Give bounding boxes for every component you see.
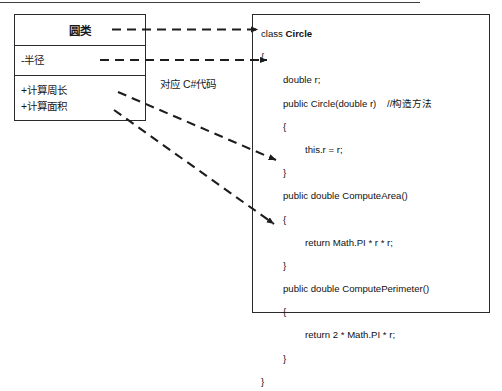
code-line: class Circle [253,22,489,45]
code-line: public double ComputeArea() [253,184,489,207]
code-line: public Circle(double r) //构造方法 [253,92,489,115]
uml-operations-compartment: +计算周长 +计算面积 [15,76,145,120]
mapping-caption: 对应 C#代码 [160,76,216,91]
code-line: public double ComputePerimeter() [253,277,489,300]
code-line: } [253,254,489,277]
uml-operation-row: +计算面积 [21,100,145,113]
code-line: return 2 * Math.PI * r; [253,323,489,346]
code-line: { [253,115,489,138]
code-line-list: class Circle{double r;public Circle(doub… [253,15,489,391]
uml-attributes-compartment: -半径 [15,46,145,76]
uml-operation-row: +计算周长 [21,84,145,97]
uml-attribute-row: -半径 [21,54,145,67]
code-line: return Math.PI * r * r; [253,231,489,254]
code-line: } [253,370,489,391]
uml-class-box[interactable]: 圆类 -半径 +计算周长 +计算面积 [14,14,146,121]
code-line: { [253,45,489,68]
code-line: this.r = r; [253,138,489,161]
uml-class-name: 圆类 [15,15,145,46]
code-line: } [253,161,489,184]
code-block-box[interactable]: class Circle{double r;public Circle(doub… [252,14,490,313]
code-line: { [253,208,489,231]
connector-operation-perimeter-to-method [114,110,274,224]
code-line: double r; [253,68,489,91]
code-line: } [253,347,489,370]
code-line: { [253,300,489,323]
top-divider-rule [0,2,420,3]
